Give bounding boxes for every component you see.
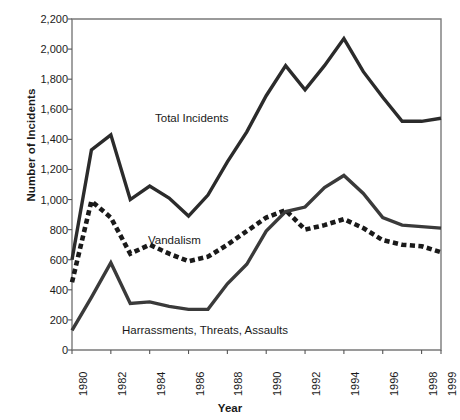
series-label-1: Vandalism xyxy=(148,234,201,246)
x-tick-label: 1996 xyxy=(388,372,400,396)
chart-container: Number of Incidents 02004006008001,0001,… xyxy=(0,0,460,420)
x-tick-label: 1986 xyxy=(194,372,206,396)
series-line-1 xyxy=(72,201,441,282)
x-tick-label: 1990 xyxy=(271,372,283,396)
x-tick-label: 1988 xyxy=(232,372,244,396)
series-line-0 xyxy=(72,39,441,260)
x-tick-label: 1998 xyxy=(427,372,439,396)
x-tick-label: 1980 xyxy=(77,372,89,396)
x-tick-label: 1982 xyxy=(116,372,128,396)
series-label-2: Harrassments, Threats, Assaults xyxy=(122,324,288,336)
x-tick-label: 1992 xyxy=(310,372,322,396)
series-label-0: Total Incidents xyxy=(155,112,229,124)
x-tick-label: 1999 xyxy=(446,372,458,396)
x-tick-label: 1994 xyxy=(349,372,361,396)
x-tick-label: 1984 xyxy=(155,372,167,396)
x-axis-title: Year xyxy=(0,402,460,414)
x-axis-tick-labels: 1980198219841986198819901992199419961998… xyxy=(0,356,460,406)
